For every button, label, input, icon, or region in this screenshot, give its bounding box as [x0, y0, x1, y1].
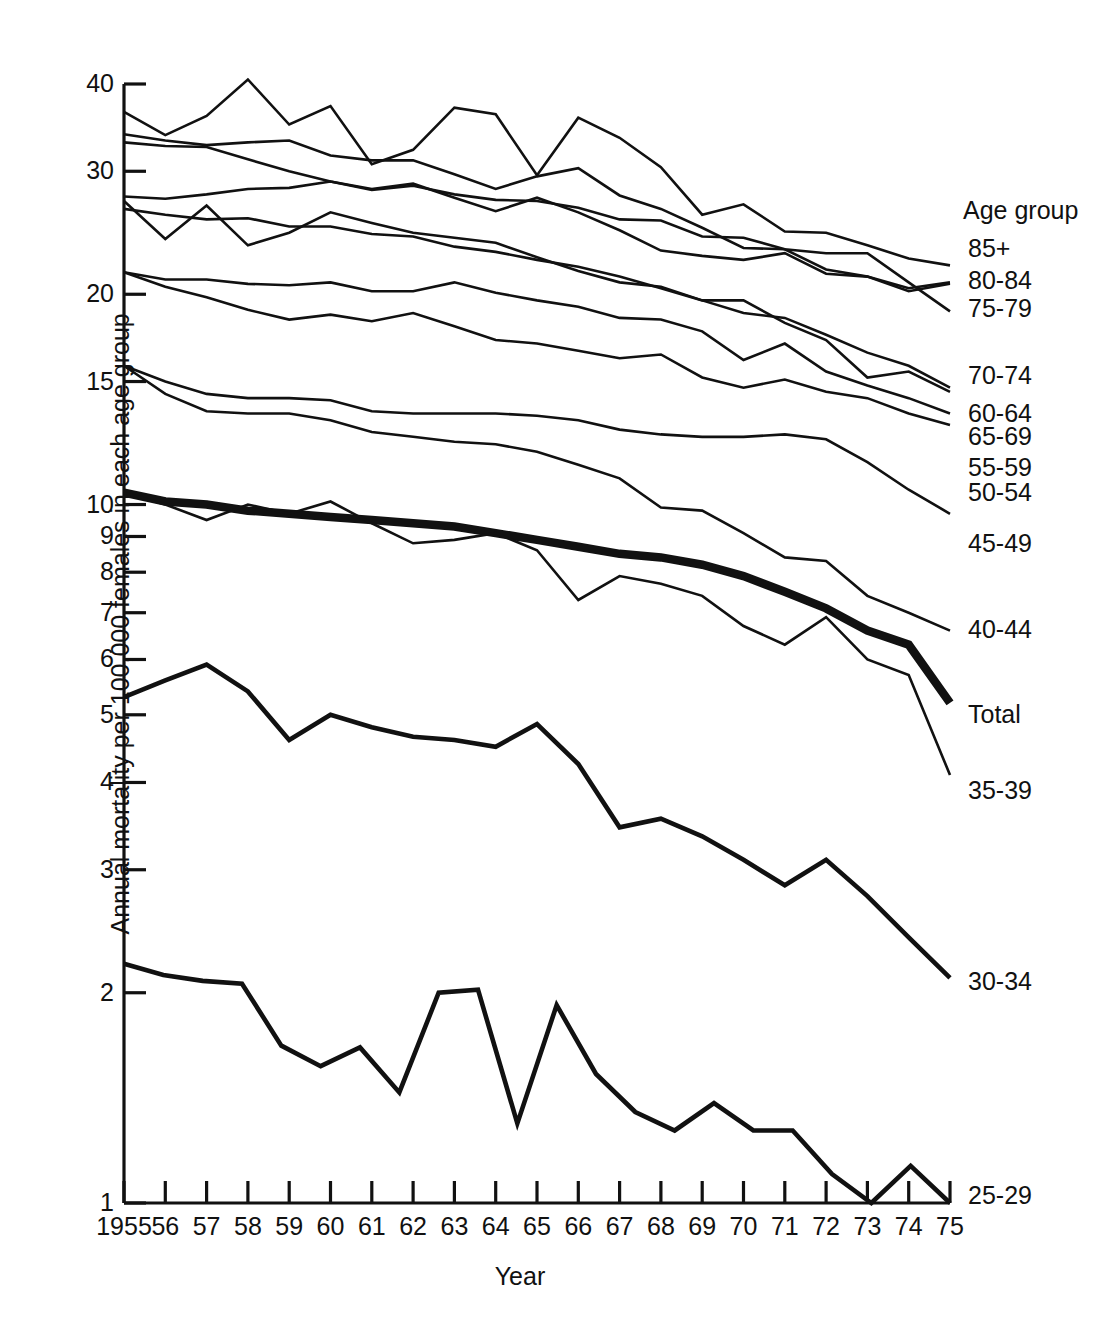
legend-item-total: Total — [968, 700, 1021, 729]
legend-title: Age group — [963, 196, 1078, 225]
legend-item-30-34: 30-34 — [968, 967, 1032, 996]
legend-item-70-74: 70-74 — [968, 361, 1032, 390]
axis-layer — [124, 84, 950, 1203]
line-chart-canvas — [0, 0, 1115, 1339]
y-axis-tick-label: 8 — [48, 557, 114, 586]
y-axis-tick-label: 9 — [48, 521, 114, 550]
y-axis-tick-label: 7 — [48, 598, 114, 627]
series-line-total — [124, 493, 950, 703]
y-axis-tick-label: 6 — [48, 644, 114, 673]
series-layer — [124, 79, 950, 1203]
series-line-80-84 — [124, 134, 950, 288]
legend-item-25-29: 25-29 — [968, 1181, 1032, 1210]
series-line-45-49 — [124, 366, 950, 514]
y-axis-tick-label: 5 — [48, 700, 114, 729]
series-line-40-44 — [124, 366, 950, 631]
legend-item-75-79: 75-79 — [968, 294, 1032, 323]
x-axis-title: Year — [0, 1262, 1040, 1291]
legend-item-35-39: 35-39 — [968, 776, 1032, 805]
series-line-35-39 — [124, 493, 950, 775]
chart-page: Annual mortality per 100,000 females in … — [0, 0, 1115, 1339]
series-line-50-54 — [124, 272, 950, 425]
y-axis-tick-label: 40 — [48, 69, 114, 98]
legend-item-65-69: 65-69 — [968, 422, 1032, 451]
legend-item-45-49: 45-49 — [968, 529, 1032, 558]
x-axis-tick-label: 75 — [910, 1212, 990, 1241]
legend-item-85-: 85+ — [968, 234, 1010, 263]
y-axis-tick-label: 10 — [48, 490, 114, 519]
y-axis-tick-label: 20 — [48, 279, 114, 308]
y-axis-tick-label: 4 — [48, 767, 114, 796]
legend-item-40-44: 40-44 — [968, 615, 1032, 644]
legend-item-80-84: 80-84 — [968, 266, 1032, 295]
series-line-30-34 — [124, 665, 950, 978]
series-line-60-64 — [124, 201, 950, 388]
y-axis-tick-label: 30 — [48, 156, 114, 185]
y-axis-tick-label: 15 — [48, 367, 114, 396]
series-line-85- — [124, 79, 950, 265]
series-line-25-29 — [124, 964, 950, 1203]
y-axis-tick-label: 3 — [48, 855, 114, 884]
y-axis-tick-label: 2 — [48, 978, 114, 1007]
legend-item-50-54: 50-54 — [968, 478, 1032, 507]
